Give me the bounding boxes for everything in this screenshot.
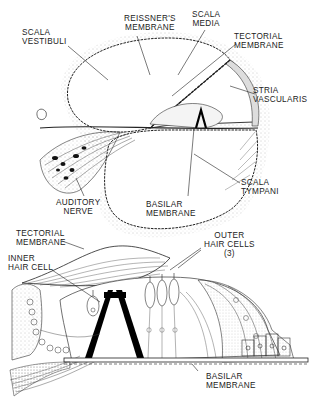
- label-tectorial-membrane-lower: TECTORIAL MEMBRANE: [16, 229, 66, 247]
- label-inner-hair-cell: INNER HAIR CELL: [8, 254, 53, 272]
- spiral-limbus: [12, 284, 42, 360]
- label-auditory-nerve: AUDITORY NERVE: [56, 198, 100, 216]
- osseous-spiral-lamina: [10, 362, 70, 396]
- organ-of-corti-detail: [10, 241, 308, 396]
- label-basilar-membrane-lower: BASILAR MEMBRANE: [206, 372, 256, 390]
- outer-hair-cells-group: [145, 279, 179, 308]
- inner-hair-cell-body: [87, 296, 99, 316]
- label-stria-vascularis: STRIA VASCULARIS: [253, 86, 307, 104]
- label-scala-media: SCALA MEDIA: [192, 10, 220, 28]
- label-outer-hair-cells: OUTER HAIR CELLS (3): [204, 231, 255, 258]
- vestibular-curl: [37, 109, 46, 119]
- label-reissners-membrane: REISSNER'S MEMBRANE: [124, 14, 176, 32]
- label-basilar-membrane-upper: BASILAR MEMBRANE: [146, 200, 196, 218]
- label-scala-tympani: SCALA TYMPANI: [241, 178, 279, 196]
- cochlea-diagram-figure: SCALA VESTIBULI REISSNER'S MEMBRANE SCAL…: [0, 0, 311, 404]
- label-scala-vestibuli: SCALA VESTIBULI: [22, 28, 67, 46]
- basilar-membrane-bar: [64, 358, 308, 362]
- label-tectorial-membrane-upper: TECTORIAL MEMBRANE: [234, 32, 284, 50]
- pillar-head: [104, 292, 126, 298]
